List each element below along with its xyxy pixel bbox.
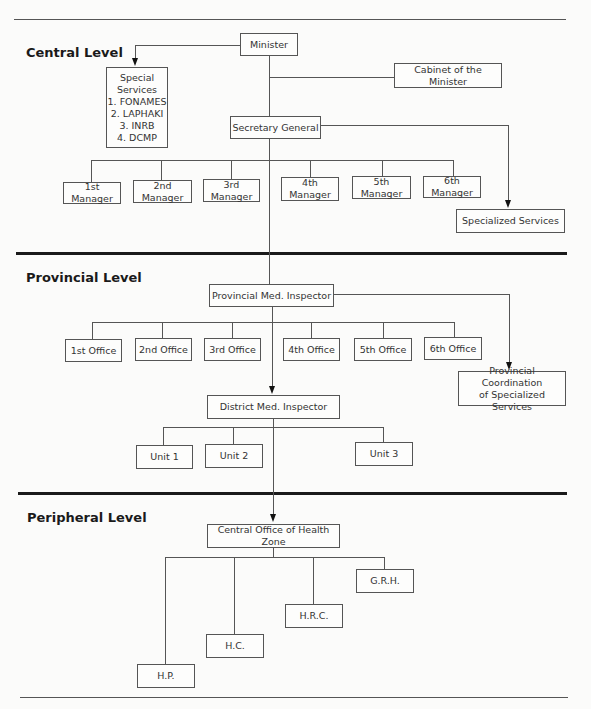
provincial-level-label: Provincial Level	[26, 270, 142, 285]
central-office-box[interactable]: Central Office of Health Zone	[207, 524, 340, 548]
manager-box[interactable]: 3rd Manager	[203, 179, 260, 202]
office-box[interactable]: 4th Office	[283, 338, 340, 361]
facility-connector	[384, 557, 385, 569]
facilities-bar	[165, 557, 385, 558]
secretary-to-specialized-line	[321, 125, 509, 126]
top-rule	[14, 19, 566, 20]
office-connector	[92, 322, 93, 339]
manager-box[interactable]: 4th Manager	[281, 177, 339, 201]
bottom-rule	[20, 697, 568, 698]
special-services-title: Services	[117, 84, 157, 96]
coordination-drop-line	[509, 294, 510, 363]
minister-to-special-line	[135, 45, 240, 46]
special-drop-line	[135, 45, 136, 59]
district-to-central-office-line	[273, 419, 274, 515]
main-trunk-line	[269, 55, 270, 116]
managers-bar	[91, 160, 454, 161]
office-connector	[232, 322, 233, 338]
unit-box[interactable]: Unit 2	[205, 444, 263, 468]
office-box[interactable]: 5th Office	[354, 338, 412, 361]
facility-box-hp[interactable]: H.P.	[137, 664, 195, 688]
special-services-title: Special	[120, 72, 154, 84]
arrow-down-icon	[132, 58, 138, 66]
facility-connector	[313, 557, 314, 604]
unit-connector	[383, 427, 384, 442]
unit-box[interactable]: Unit 1	[136, 445, 193, 469]
manager-box[interactable]: 2nd Manager	[133, 180, 192, 203]
provincial-peripheral-divider	[18, 492, 567, 495]
central-office-stem	[273, 548, 274, 557]
provincial-coordination-box[interactable]: Provincial Coordination of Specialized S…	[458, 371, 566, 406]
facility-box-hrc[interactable]: H.R.C.	[285, 604, 343, 628]
unit-connector	[163, 427, 164, 445]
office-box[interactable]: 6th Office	[424, 337, 482, 360]
facility-connector	[165, 557, 166, 664]
district-inspector-box[interactable]: District Med. Inspector	[207, 395, 340, 419]
arrow-down-icon	[505, 200, 511, 208]
coordination-label: of Specialized Services	[459, 389, 565, 413]
special-service-item: 1. FONAMES	[108, 96, 167, 108]
office-box[interactable]: 3rd Office	[204, 338, 261, 361]
secretary-general-box[interactable]: Secretary General	[230, 116, 321, 139]
special-service-item: 2. LAPHAKI	[111, 108, 164, 120]
office-box[interactable]: 1st Office	[65, 339, 122, 362]
manager-box[interactable]: 5th Manager	[352, 176, 411, 199]
manager-connector	[91, 160, 92, 182]
special-services-box[interactable]: Special Services 1. FONAMES 2. LAPHAKI 3…	[106, 67, 168, 148]
facility-box-grh[interactable]: G.R.H.	[356, 569, 414, 593]
unit-connector	[233, 427, 234, 444]
cabinet-box[interactable]: Cabinet of the Minister	[394, 63, 502, 88]
office-connector	[311, 322, 312, 338]
provincial-inspector-box[interactable]: Provincial Med. Inspector	[209, 284, 334, 307]
minister-box[interactable]: Minister	[240, 33, 298, 56]
facility-box-hc[interactable]: H.C.	[206, 634, 264, 658]
unit-box[interactable]: Unit 3	[355, 442, 413, 466]
peripheral-level-label: Peripheral Level	[27, 510, 147, 525]
specialized-services-box[interactable]: Specialized Services	[456, 209, 565, 233]
arrow-down-icon	[270, 514, 276, 522]
coordination-label: Provincial Coordination	[459, 365, 565, 389]
office-connector	[162, 322, 163, 338]
offices-bar	[92, 322, 455, 323]
specialized-drop-line	[508, 125, 509, 201]
central-provincial-divider	[16, 252, 567, 255]
office-connector	[383, 322, 384, 338]
facility-connector	[234, 557, 235, 634]
office-connector	[454, 322, 455, 338]
manager-box[interactable]: 1st Manager	[63, 182, 121, 204]
inspector-to-district-line	[272, 307, 273, 387]
manager-box[interactable]: 6th Manager	[423, 176, 481, 198]
special-service-item: 4. DCMP	[117, 132, 157, 144]
inspector-to-coordination-line	[334, 294, 510, 295]
special-service-item: 3. INRB	[119, 120, 154, 132]
arrow-down-icon	[269, 386, 275, 394]
office-box[interactable]: 2nd Office	[135, 338, 192, 361]
central-level-label: Central Level	[26, 45, 123, 60]
trunk-to-cabinet-line	[269, 77, 394, 78]
